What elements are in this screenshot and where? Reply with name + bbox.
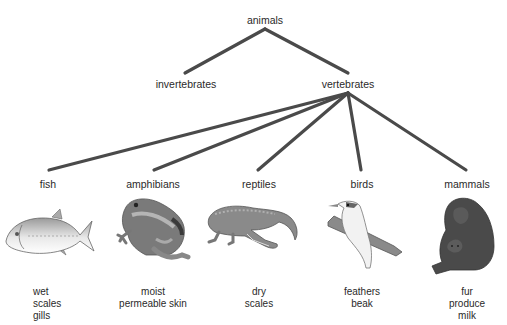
node-vertebrates: vertebrates xyxy=(322,78,375,90)
trait: gills xyxy=(33,310,61,322)
tree-connectors xyxy=(0,0,507,325)
node-fish: fish xyxy=(40,178,56,190)
traits-birds: feathers beak xyxy=(344,286,380,310)
node-animals: animals xyxy=(247,14,283,26)
traits-reptiles: dry scales xyxy=(245,286,273,310)
traits-amphibians: moist permeable skin xyxy=(119,286,187,310)
traits-mammals: fur produce milk xyxy=(447,286,487,322)
node-amphibians: amphibians xyxy=(126,178,180,190)
trait: wet xyxy=(33,286,61,298)
crocodile-icon xyxy=(205,200,305,255)
trait: fur xyxy=(447,286,487,298)
edge-animals-vertebrates xyxy=(265,29,348,73)
edge-vertebrates-mammals xyxy=(348,93,466,170)
edge-animals-invertebrates xyxy=(185,29,265,73)
gorilla-icon xyxy=(430,196,500,276)
trait: moist xyxy=(119,286,187,298)
fish-icon xyxy=(2,205,98,260)
traits-fish: wet scales gills xyxy=(33,286,61,322)
trait: dry xyxy=(245,286,273,298)
trait: beak xyxy=(344,298,380,310)
trait: scales xyxy=(33,298,61,310)
frog-icon xyxy=(116,193,191,263)
node-reptiles: reptiles xyxy=(242,178,276,190)
edge-vertebrates-birds xyxy=(348,93,361,170)
bird-icon xyxy=(324,198,404,270)
node-birds: birds xyxy=(351,178,374,190)
trait: scales xyxy=(245,298,273,310)
trait: permeable skin xyxy=(119,298,187,310)
node-mammals: mammals xyxy=(444,178,490,190)
trait: feathers xyxy=(344,286,380,298)
trait: produce milk xyxy=(447,298,487,322)
edge-vertebrates-amphibians xyxy=(154,93,348,170)
node-invertebrates: invertebrates xyxy=(156,78,217,90)
